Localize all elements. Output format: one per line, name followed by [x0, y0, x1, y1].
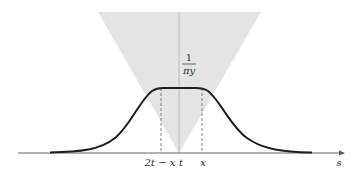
tick-label-x: x	[200, 157, 206, 168]
tick-label-2t-minus-x: 2t − x	[144, 157, 176, 168]
diagram: 1 πy 2t − x t x s	[0, 0, 356, 175]
tick-label-t: t	[179, 157, 184, 168]
axis-arrowhead-icon	[339, 151, 345, 156]
plateau-numerator: 1	[186, 52, 192, 63]
axis-label-s: s	[336, 157, 341, 168]
plateau-denominator: πy	[182, 65, 196, 76]
